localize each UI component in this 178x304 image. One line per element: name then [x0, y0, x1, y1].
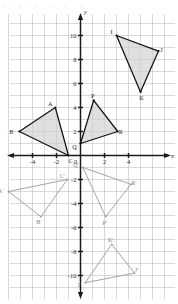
- x-axis-arrow-right: [164, 153, 171, 158]
- vertex-point-K: [139, 91, 141, 93]
- vertex-label-C-prime: C': [60, 172, 65, 179]
- vertex-point-A: [54, 106, 56, 108]
- vertex-label-K-prime: K': [108, 236, 114, 243]
- x-tick-label: -2: [54, 158, 59, 165]
- vertex-label-R-prime: R': [131, 179, 136, 186]
- vertex-point-J: [157, 50, 159, 52]
- vertex-point-B: [18, 130, 20, 132]
- triangle-P-Q-R-prime: [83, 168, 131, 217]
- y-tick-label: -8: [71, 248, 76, 255]
- vertex-point-Q-prime: [82, 167, 84, 169]
- x-tick-label: 4: [127, 158, 131, 165]
- coordinate-grid-plot: IJKABCPQRA'B'C'Q'R'P'I'J'K' -4-202410864…: [0, 0, 178, 304]
- vertex-point-P-prime: [105, 216, 107, 218]
- x-axis-label: x: [170, 152, 174, 159]
- vertex-label-P-prime: P': [102, 219, 107, 226]
- y-axis-arrow-up: [78, 13, 83, 20]
- vertex-label-I: I: [110, 28, 112, 35]
- coordinate-plane-figure: x - y - x - y - x - y IJKABCPQRA'B'C'Q'R…: [0, 0, 178, 304]
- y-tick-label: -10: [68, 272, 77, 279]
- vertex-label-R: R: [119, 128, 124, 135]
- vertex-label-J-prime: J': [135, 266, 139, 273]
- y-tick-label: -2: [71, 176, 76, 183]
- triangle-A-B-C-prime: [9, 180, 68, 217]
- vertex-label-J: J: [160, 46, 163, 53]
- y-tick-label: 2: [73, 128, 76, 135]
- triangle-PQR: [81, 100, 118, 143]
- y-tick-label: -6: [71, 224, 77, 231]
- vertex-point-K-prime: [111, 243, 113, 245]
- vertex-point-I-prime: [84, 282, 86, 284]
- triangles-group: IJKABCPQRA'B'C'Q'R'P'I'J'K': [0, 28, 163, 288]
- vertex-label-B-prime: B': [36, 218, 41, 225]
- vertex-point-I: [115, 34, 117, 36]
- x-tick-label: 2: [103, 158, 106, 165]
- vertex-label-B: B: [9, 128, 13, 135]
- vertex-label-A: A: [48, 100, 53, 107]
- x-axis-arrow-left: [7, 153, 14, 158]
- vertex-point-C-prime: [66, 179, 68, 181]
- x-tick-label: 0: [74, 158, 77, 165]
- x-tick-label: -4: [30, 158, 36, 165]
- y-tick-label: -4: [71, 200, 77, 207]
- vertex-label-P: P: [91, 92, 95, 99]
- triangle-ABC: [19, 108, 68, 156]
- y-tick-label: 8: [73, 56, 76, 63]
- vertex-label-A-prime: A': [0, 187, 3, 194]
- y-axis-arrow-down: [78, 292, 83, 299]
- vertex-label-Q: Q: [72, 143, 77, 150]
- vertex-point-P: [93, 99, 95, 101]
- y-tick-label: 10: [70, 32, 77, 39]
- vertex-label-I-prime: I': [78, 281, 81, 288]
- vertex-point-A-prime: [8, 191, 10, 193]
- vertex-label-C: C: [68, 157, 72, 164]
- vertex-label-K: K: [139, 94, 144, 101]
- faint-header-text: x - y - x - y - x - y: [0, 0, 178, 11]
- vertex-point-Q: [79, 142, 81, 144]
